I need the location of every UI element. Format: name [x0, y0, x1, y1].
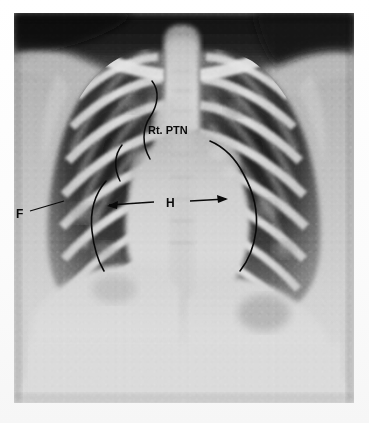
annotation-label-f: F: [16, 207, 23, 221]
chest-radiograph-film: Rt. PTN H F: [14, 13, 354, 403]
annotation-label-h: H: [166, 196, 175, 210]
annotation-label-rt-ptn: Rt. PTN: [148, 124, 188, 136]
thoracic-spine: [170, 49, 194, 313]
figure-page: Rt. PTN H F: [0, 0, 369, 423]
radiograph-image: Rt. PTN H F: [14, 13, 354, 403]
